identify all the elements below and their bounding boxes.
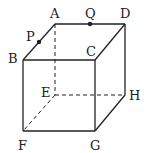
label-P: P bbox=[26, 29, 35, 44]
label-G: G bbox=[90, 138, 100, 153]
label-F: F bbox=[18, 138, 27, 153]
label-Q: Q bbox=[85, 6, 96, 21]
label-D: D bbox=[120, 6, 130, 21]
label-E: E bbox=[41, 85, 51, 100]
point-P bbox=[37, 40, 41, 44]
cube-diagram: A Q D P B C E H F G bbox=[0, 0, 148, 153]
label-A: A bbox=[49, 6, 60, 21]
edge-GH bbox=[95, 95, 125, 131]
label-B: B bbox=[8, 51, 18, 66]
edge-DC bbox=[95, 24, 125, 60]
edge-EF bbox=[23, 95, 55, 131]
label-C: C bbox=[86, 44, 96, 59]
label-H: H bbox=[129, 88, 140, 103]
point-Q bbox=[88, 22, 92, 26]
